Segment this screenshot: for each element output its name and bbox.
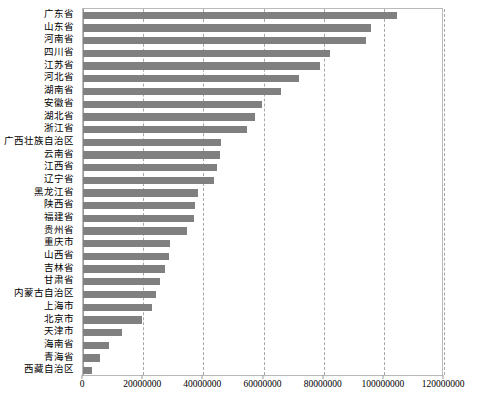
x-axis-tick xyxy=(322,375,323,379)
bar[interactable] xyxy=(83,151,220,158)
y-axis-category-label: 广东省 xyxy=(44,8,74,21)
bar-row[interactable] xyxy=(83,111,444,124)
y-axis-category-label: 云南省 xyxy=(44,148,74,161)
bar-chart: 广东省山东省河南省四川省江苏省河北省湖南省安徽省湖北省浙江省广西壮族自治区云南省… xyxy=(0,0,482,416)
bar[interactable] xyxy=(83,113,255,120)
bar-row[interactable] xyxy=(83,161,444,174)
bar-row[interactable] xyxy=(83,22,444,35)
bar[interactable] xyxy=(83,253,169,260)
bar-row[interactable] xyxy=(83,301,444,314)
y-axis-category-label: 四川省 xyxy=(44,46,74,59)
y-axis-category-label: 上海市 xyxy=(44,300,74,313)
bar-row[interactable] xyxy=(83,98,444,111)
bar[interactable] xyxy=(83,12,397,19)
bar[interactable] xyxy=(83,139,221,146)
bar-row[interactable] xyxy=(83,314,444,327)
bar[interactable] xyxy=(83,354,100,361)
bar-row[interactable] xyxy=(83,364,444,377)
bar-row[interactable] xyxy=(83,199,444,212)
x-axis-tick-label: 0 xyxy=(80,379,85,389)
bar[interactable] xyxy=(83,304,152,311)
bar[interactable] xyxy=(83,62,320,69)
x-axis-tick-label: 80000000 xyxy=(304,379,342,389)
plot-area xyxy=(82,8,443,376)
bar[interactable] xyxy=(83,75,299,82)
y-axis-category-label: 河北省 xyxy=(44,71,74,84)
bar[interactable] xyxy=(83,126,247,133)
y-axis-category-label: 黑龙江省 xyxy=(34,186,74,199)
x-axis-tick xyxy=(202,375,203,379)
bar[interactable] xyxy=(83,88,281,95)
x-axis-tick xyxy=(262,375,263,379)
gridline xyxy=(444,9,445,375)
bar-row[interactable] xyxy=(83,60,444,73)
x-axis-tick xyxy=(443,375,444,379)
y-axis-category-label: 北京市 xyxy=(44,313,74,326)
bar-row[interactable] xyxy=(83,275,444,288)
bar[interactable] xyxy=(83,101,262,108)
x-axis-tick-label: 100000000 xyxy=(361,379,404,389)
bar[interactable] xyxy=(83,240,170,247)
bar[interactable] xyxy=(83,342,109,349)
bar[interactable] xyxy=(83,215,194,222)
y-axis-category-label: 山西省 xyxy=(44,249,74,262)
y-axis-category-label: 西藏自治区 xyxy=(24,363,74,376)
bar-row[interactable] xyxy=(83,72,444,85)
bar[interactable] xyxy=(83,24,371,31)
y-axis-category-label: 内蒙古自治区 xyxy=(14,287,74,300)
y-axis-category-label: 辽宁省 xyxy=(44,173,74,186)
bar[interactable] xyxy=(83,329,122,336)
bar-series xyxy=(83,9,442,375)
y-axis-category-label: 重庆市 xyxy=(44,236,74,249)
bar-row[interactable] xyxy=(83,85,444,98)
y-axis-category-label: 山东省 xyxy=(44,21,74,34)
y-axis-category-label: 浙江省 xyxy=(44,122,74,135)
bar-row[interactable] xyxy=(83,34,444,47)
y-axis-category-label: 江苏省 xyxy=(44,59,74,72)
bar[interactable] xyxy=(83,265,165,272)
y-axis-category-label: 湖南省 xyxy=(44,84,74,97)
bar[interactable] xyxy=(83,189,198,196)
y-axis-category-label: 青海省 xyxy=(44,351,74,364)
y-axis-category-label: 河南省 xyxy=(44,33,74,46)
bar[interactable] xyxy=(83,177,214,184)
bar-row[interactable] xyxy=(83,149,444,162)
y-axis-category-label: 江西省 xyxy=(44,160,74,173)
bar-row[interactable] xyxy=(83,237,444,250)
bar-row[interactable] xyxy=(83,136,444,149)
x-axis-tick xyxy=(82,375,83,379)
bar[interactable] xyxy=(83,316,142,323)
bar-row[interactable] xyxy=(83,263,444,276)
bar-row[interactable] xyxy=(83,47,444,60)
bar[interactable] xyxy=(83,278,160,285)
bar-row[interactable] xyxy=(83,9,444,22)
bar-row[interactable] xyxy=(83,212,444,225)
y-axis-category-label: 海南省 xyxy=(44,338,74,351)
bar-row[interactable] xyxy=(83,326,444,339)
bar[interactable] xyxy=(83,50,330,57)
y-axis-category-label: 福建省 xyxy=(44,211,74,224)
y-axis-category-label: 贵州省 xyxy=(44,224,74,237)
y-axis-category-label: 广西壮族自治区 xyxy=(4,135,74,148)
bar-row[interactable] xyxy=(83,225,444,238)
bar[interactable] xyxy=(83,164,217,171)
bar-row[interactable] xyxy=(83,250,444,263)
bar-row[interactable] xyxy=(83,352,444,365)
y-axis-category-label: 甘肃省 xyxy=(44,274,74,287)
y-axis-category-label: 安徽省 xyxy=(44,97,74,110)
x-axis-tick xyxy=(142,375,143,379)
x-axis-tick xyxy=(382,375,383,379)
bar-row[interactable] xyxy=(83,339,444,352)
bar[interactable] xyxy=(83,227,187,234)
bar[interactable] xyxy=(83,291,156,298)
bar[interactable] xyxy=(83,202,195,209)
bar[interactable] xyxy=(83,37,366,44)
x-axis-tick-label: 40000000 xyxy=(183,379,221,389)
bar[interactable] xyxy=(83,367,92,374)
x-axis-tick-label: 20000000 xyxy=(123,379,161,389)
bar-row[interactable] xyxy=(83,288,444,301)
bar-row[interactable] xyxy=(83,123,444,136)
bar-row[interactable] xyxy=(83,174,444,187)
bar-row[interactable] xyxy=(83,187,444,200)
y-axis-category-label: 吉林省 xyxy=(44,262,74,275)
